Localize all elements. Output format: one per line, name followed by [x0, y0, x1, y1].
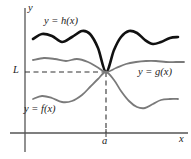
- plot-area: [0, 0, 191, 159]
- curve-label-h: y = h(x): [44, 16, 78, 27]
- curve-label-f: y = f(x): [24, 104, 56, 115]
- squeeze-theorem-figure: y = h(x) y = g(x) y = f(x) L a y x: [0, 0, 191, 159]
- y-axis-label: y: [28, 3, 33, 14]
- x-axis-label: x: [179, 134, 184, 145]
- curve-label-g: y = g(x): [138, 67, 172, 78]
- y-axis-value-label-L: L: [13, 65, 19, 76]
- x-axis-value-label-a: a: [102, 136, 107, 147]
